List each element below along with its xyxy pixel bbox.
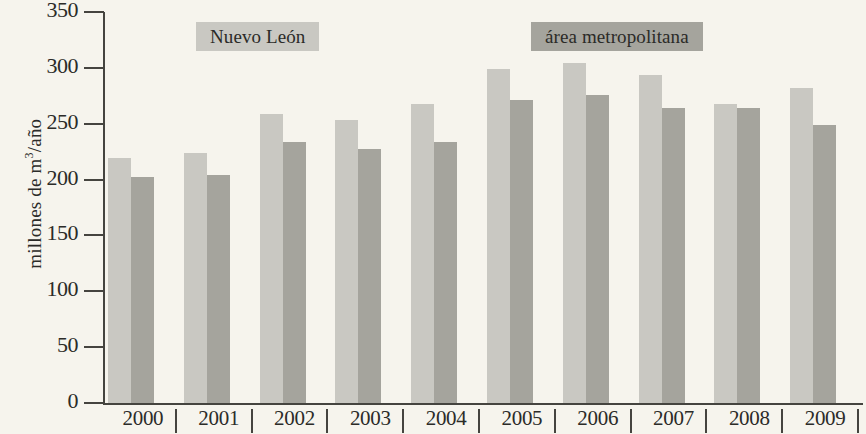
x-axis-separator (857, 409, 859, 433)
x-axis-separator (478, 409, 480, 433)
bar-group (105, 12, 181, 403)
y-axis-tick-label: 100 (8, 276, 78, 302)
y-axis-tick-label: 200 (8, 165, 78, 191)
bar (335, 120, 358, 403)
x-axis-label: 2003 (334, 406, 406, 431)
x-axis-label: 2001 (183, 406, 255, 431)
y-axis-tick-label: 150 (8, 220, 78, 246)
y-axis-tick-mark (84, 234, 104, 236)
x-axis-label: 2008 (713, 406, 785, 431)
bar (358, 149, 381, 403)
x-axis-separator (326, 409, 328, 433)
bar (411, 104, 434, 403)
x-axis-separator (630, 409, 632, 433)
y-axis-tick-mark (84, 67, 104, 69)
y-axis-tick-label: 300 (8, 53, 78, 79)
y-axis-tick-mark (84, 402, 104, 404)
x-axis-separator (251, 409, 253, 433)
y-axis-tick-mark (84, 290, 104, 292)
bar-group (332, 12, 408, 403)
x-axis-label: 2009 (789, 406, 861, 431)
x-axis-label: 2000 (107, 406, 179, 431)
y-axis-tick-label: 0 (8, 388, 78, 414)
x-axis-label: 2007 (638, 406, 710, 431)
y-axis-tick-label: 50 (8, 332, 78, 358)
bar (639, 75, 662, 403)
bar-group (408, 12, 484, 403)
bar (260, 114, 283, 403)
bar (662, 108, 685, 403)
y-axis-tick-label: 350 (8, 0, 78, 23)
x-axis-label: 2002 (259, 406, 331, 431)
bar (131, 177, 154, 403)
y-axis-title-exponent: 3 (22, 152, 36, 158)
y-axis-tick-label: 250 (8, 109, 78, 135)
bar (510, 100, 533, 403)
y-axis-tick-mark (84, 179, 104, 181)
legend-label: área metropolitana (545, 26, 689, 48)
bar (737, 108, 760, 403)
bar (813, 125, 836, 403)
bar-group (181, 12, 257, 403)
legend-label: Nuevo León (210, 26, 305, 48)
y-axis-tick-mark (84, 11, 104, 13)
x-axis-label: 2006 (562, 406, 634, 431)
bar (184, 153, 207, 403)
bar (283, 142, 306, 403)
bar-group (560, 12, 636, 403)
bar-group (484, 12, 560, 403)
legend-item-nuevo-leon: Nuevo León (196, 22, 319, 51)
x-axis-separator (554, 409, 556, 433)
bar (487, 69, 510, 403)
x-axis-label: 2004 (410, 406, 482, 431)
bar-group (711, 12, 787, 403)
bar (563, 63, 586, 403)
bar (434, 142, 457, 403)
bar-group (787, 12, 863, 403)
x-axis-labels: 2000200120022003200420052006200720082009 (105, 405, 863, 434)
x-axis-separator (175, 409, 177, 433)
bar (586, 95, 609, 403)
y-axis-tick-mark (84, 346, 104, 348)
bar (790, 88, 813, 403)
x-axis-separator (402, 409, 404, 433)
x-axis-label: 2005 (486, 406, 558, 431)
x-axis-separator (705, 409, 707, 433)
legend-item-area-metropolitana: área metropolitana (531, 22, 703, 51)
bar (108, 158, 131, 403)
bar (714, 104, 737, 403)
bar-group (636, 12, 712, 403)
bar-chart: millones de m3/año 050100150200250300350… (0, 0, 866, 434)
plot-area (105, 12, 863, 403)
bar (207, 175, 230, 403)
bar-group (257, 12, 333, 403)
x-axis-separator (781, 409, 783, 433)
y-axis-tick-mark (84, 123, 104, 125)
